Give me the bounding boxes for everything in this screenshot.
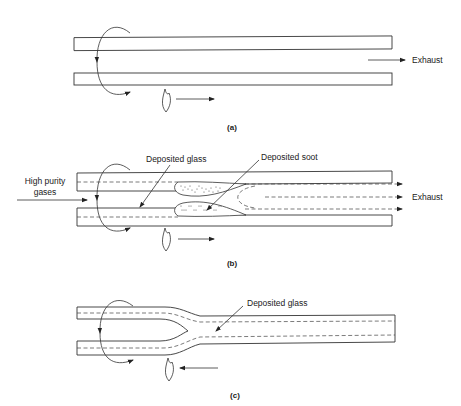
soot-particle — [184, 210, 185, 211]
panel-a: Exhaust (a) — [74, 27, 443, 132]
soot-particle — [195, 192, 196, 193]
soot-particle — [201, 206, 202, 207]
soot-particle — [218, 191, 219, 192]
panel-caption: (c) — [230, 391, 240, 400]
soot-particle — [202, 188, 203, 189]
soot-particle — [182, 210, 183, 211]
soot-deposit-bottom — [175, 202, 246, 217]
flame-icon — [165, 358, 173, 381]
panel-c: Deposited glass (c) — [77, 298, 395, 400]
exhaust-flow-line — [238, 186, 255, 208]
inlet-label-line2: gases — [34, 187, 57, 197]
soot-particle — [209, 206, 210, 207]
soot-particle — [220, 188, 221, 189]
exhaust-label: Exhaust — [412, 192, 443, 202]
soot-particle — [192, 190, 193, 191]
inlet-label-line1: High purity — [25, 176, 66, 186]
soot-particle — [185, 187, 186, 188]
soot-particle — [216, 187, 217, 188]
soot-particle — [204, 210, 205, 211]
deposited-soot-label: Deposited soot — [261, 152, 318, 162]
panel-caption: (a) — [227, 123, 237, 132]
soot-particle — [209, 191, 210, 192]
soot-particle — [191, 206, 192, 207]
mcvd-process-diagram: Exhaust (a) Exhaust High purity gases De… — [0, 0, 461, 406]
deposited-glass-label: Deposited glass — [247, 298, 307, 308]
soot-particle — [181, 206, 182, 207]
soot-particle — [188, 189, 189, 190]
soot-particle — [190, 186, 191, 187]
soot-particle — [196, 210, 197, 211]
panel-b: Exhaust High purity gases Deposited glas… — [17, 152, 443, 268]
soot-particle — [219, 206, 220, 207]
soot-particle — [214, 210, 215, 211]
soot-particle — [206, 210, 207, 211]
soot-particle — [211, 188, 212, 189]
soot-deposit-top — [175, 182, 246, 196]
soot-particle — [181, 186, 182, 187]
soot-particle — [186, 210, 187, 211]
soot-particle — [213, 192, 214, 193]
soot-particle — [199, 186, 200, 187]
soot-particle — [206, 189, 207, 190]
soot-particle — [199, 206, 200, 207]
soot-particle — [221, 206, 222, 207]
soot-particle — [183, 190, 184, 191]
deposited-glass-label: Deposited glass — [146, 154, 206, 164]
panel-caption: (b) — [227, 259, 238, 268]
soot-particle — [197, 189, 198, 190]
exhaust-label: Exhaust — [412, 55, 443, 65]
soot-particle — [204, 192, 205, 193]
tube-wall-bottom — [74, 73, 392, 85]
soot-particle — [194, 210, 195, 211]
flame-icon — [162, 89, 170, 112]
flame-icon — [162, 228, 170, 251]
tube-wall-top — [74, 36, 392, 51]
soot-particle — [189, 206, 190, 207]
soot-particle — [216, 210, 217, 211]
